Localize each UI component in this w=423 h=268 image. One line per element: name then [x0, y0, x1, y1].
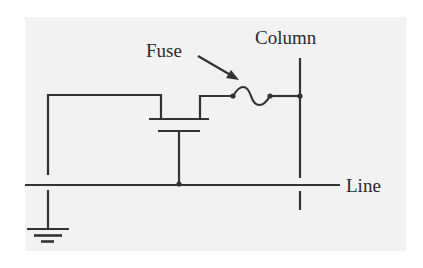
fuse-icon	[233, 87, 270, 105]
column-label: Column	[255, 27, 317, 48]
source-wire	[200, 96, 233, 119]
line-label: Line	[346, 175, 381, 196]
left-wire	[48, 95, 161, 175]
arrowhead-icon	[226, 70, 239, 80]
junction-dot	[230, 93, 235, 98]
fuse-label: Fuse	[146, 40, 182, 61]
junction-dot	[297, 93, 302, 98]
junction-dot	[267, 93, 272, 98]
junction-dot	[176, 181, 181, 186]
ground-icon	[27, 229, 69, 242]
circuit-diagram: Fuse Column Line	[0, 0, 423, 268]
